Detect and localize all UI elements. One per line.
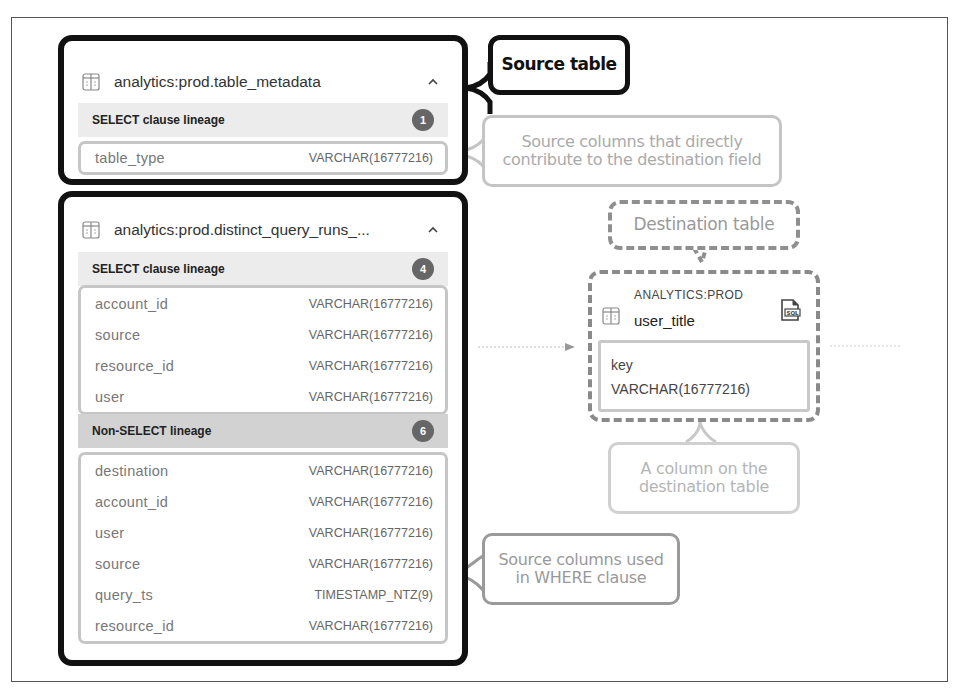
table-icon bbox=[82, 221, 100, 239]
callout-text: Source columns used bbox=[498, 551, 663, 569]
section-label: SELECT clause lineage bbox=[92, 113, 412, 127]
callout-destination-table: Destination table bbox=[608, 200, 800, 250]
source-table-title: analytics:prod.distinct_query_runs_... bbox=[114, 221, 426, 239]
column-row[interactable]: user VARCHAR(16777216) bbox=[81, 517, 445, 548]
column-row[interactable]: resource_id VARCHAR(16777216) bbox=[81, 610, 445, 641]
callout-direct-columns: Source columns that directly contribute … bbox=[482, 115, 782, 187]
column-name: resource_id bbox=[95, 358, 174, 374]
count-badge: 1 bbox=[412, 109, 434, 131]
section-header-non-select[interactable]: Non-SELECT lineage 6 bbox=[78, 414, 448, 448]
card-header[interactable]: analytics:prod.distinct_query_runs_... bbox=[82, 217, 444, 243]
count-badge: 6 bbox=[412, 420, 434, 442]
column-name: resource_id bbox=[95, 618, 174, 634]
destination-schema: ANALYTICS:PROD bbox=[634, 288, 743, 302]
callout-where-columns: Source columns used in WHERE clause bbox=[482, 533, 680, 605]
source-table-title: analytics:prod.table_metadata bbox=[114, 73, 426, 91]
column-type: VARCHAR(16777216) bbox=[309, 619, 433, 633]
column-name: destination bbox=[95, 463, 168, 479]
source-table-card-2: analytics:prod.distinct_query_runs_... S… bbox=[58, 191, 468, 666]
column-group-select: account_id VARCHAR(16777216) source VARC… bbox=[78, 285, 448, 415]
callout-destination-column: A column on the destination table bbox=[608, 442, 800, 514]
table-icon bbox=[82, 73, 100, 91]
callout-text: Source columns that directly bbox=[503, 133, 762, 151]
destination-table-name: user_title bbox=[634, 312, 695, 329]
sql-file-icon[interactable]: SQL bbox=[778, 298, 802, 322]
column-type: VARCHAR(16777216) bbox=[309, 328, 433, 342]
column-name: source bbox=[95, 327, 140, 343]
table-icon bbox=[602, 307, 620, 325]
callout-text: Destination table bbox=[634, 215, 775, 235]
chevron-up-icon[interactable] bbox=[426, 223, 440, 237]
column-type: VARCHAR(16777216) bbox=[309, 151, 433, 165]
column-type: VARCHAR(16777216) bbox=[309, 495, 433, 509]
column-name: table_type bbox=[95, 150, 165, 166]
column-name: user bbox=[95, 389, 124, 405]
count-badge: 4 bbox=[412, 258, 434, 280]
column-row[interactable]: account_id VARCHAR(16777216) bbox=[81, 288, 445, 319]
column-type: VARCHAR(16777216) bbox=[309, 464, 433, 478]
callout-text: A column on the bbox=[639, 460, 769, 478]
destination-table-card[interactable]: ANALYTICS:PROD user_title SQL key VARCHA… bbox=[588, 270, 820, 422]
callout-text: contribute to the destination field bbox=[503, 151, 762, 169]
column-name: query_ts bbox=[95, 587, 153, 603]
column-row[interactable]: user VARCHAR(16777216) bbox=[81, 381, 445, 412]
column-row[interactable]: destination VARCHAR(16777216) bbox=[81, 455, 445, 486]
column-name: account_id bbox=[95, 296, 168, 312]
column-name: account_id bbox=[95, 494, 168, 510]
column-type: VARCHAR(16777216) bbox=[309, 390, 433, 404]
column-name: source bbox=[95, 556, 140, 572]
column-type: VARCHAR(16777216) bbox=[309, 297, 433, 311]
section-label: Non-SELECT lineage bbox=[92, 424, 412, 438]
column-group-non-select: destination VARCHAR(16777216) account_id… bbox=[78, 452, 448, 644]
column-type: VARCHAR(16777216) bbox=[309, 526, 433, 540]
section-label: SELECT clause lineage bbox=[92, 262, 412, 276]
callout-text: destination table bbox=[639, 478, 769, 496]
callout-source-table: Source table bbox=[488, 35, 630, 95]
column-row[interactable]: query_ts TIMESTAMP_NTZ(9) bbox=[81, 579, 445, 610]
svg-text:SQL: SQL bbox=[786, 310, 799, 316]
column-row[interactable]: source VARCHAR(16777216) bbox=[81, 548, 445, 579]
callout-text: in WHERE clause bbox=[498, 569, 663, 587]
column-row[interactable]: table_type VARCHAR(16777216) bbox=[81, 144, 445, 172]
column-row[interactable]: source VARCHAR(16777216) bbox=[81, 319, 445, 350]
column-group-select: table_type VARCHAR(16777216) bbox=[78, 141, 448, 175]
callout-text: Source table bbox=[501, 55, 616, 75]
source-table-card-1: analytics:prod.table_metadata SELECT cla… bbox=[58, 35, 468, 185]
column-row[interactable]: account_id VARCHAR(16777216) bbox=[81, 486, 445, 517]
column-row[interactable]: resource_id VARCHAR(16777216) bbox=[81, 350, 445, 381]
destination-column[interactable]: key VARCHAR(16777216) bbox=[598, 340, 810, 412]
chevron-up-icon[interactable] bbox=[426, 75, 440, 89]
section-header-select[interactable]: SELECT clause lineage 4 bbox=[78, 252, 448, 286]
column-type: VARCHAR(16777216) bbox=[309, 359, 433, 373]
column-name: key bbox=[611, 357, 797, 373]
column-type: VARCHAR(16777216) bbox=[309, 557, 433, 571]
column-name: user bbox=[95, 525, 124, 541]
column-type: VARCHAR(16777216) bbox=[611, 381, 797, 397]
section-header-select[interactable]: SELECT clause lineage 1 bbox=[78, 103, 448, 137]
card-header[interactable]: analytics:prod.table_metadata bbox=[82, 69, 444, 95]
column-type: TIMESTAMP_NTZ(9) bbox=[314, 588, 433, 602]
